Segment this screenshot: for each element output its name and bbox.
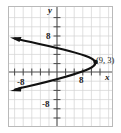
x-axis-label: x xyxy=(105,73,110,82)
parabola-graph-figure: y x 8 -8 -8 8 (9, 3) xyxy=(0,0,121,133)
y-tick-label-negative-8: -8 xyxy=(42,100,50,109)
coordinate-plane-svg xyxy=(0,0,121,133)
x-tick-label-8: 8 xyxy=(79,76,84,85)
x-tick-label-negative-8: -8 xyxy=(17,78,25,87)
y-tick-label-8: 8 xyxy=(46,32,51,41)
vertex-coordinate-label: (9, 3) xyxy=(96,56,114,65)
y-axis-label: y xyxy=(48,6,52,15)
